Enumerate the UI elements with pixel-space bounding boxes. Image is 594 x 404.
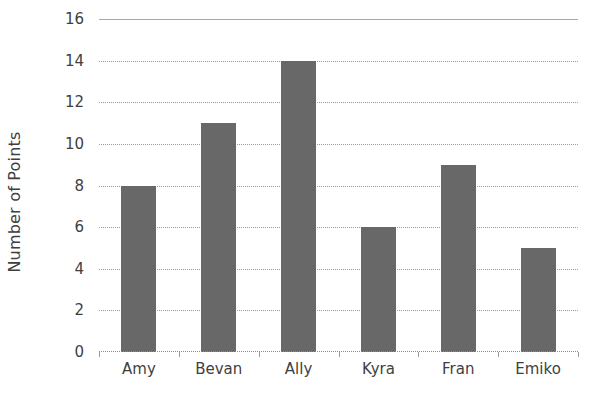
x-tick-label: Bevan [195,362,242,377]
x-tick-label: Kyra [362,362,395,377]
bar[interactable] [201,123,236,352]
bar[interactable] [361,227,396,352]
x-axis-tick-labels: AmyBevanAllyKyraFranEmiko [99,362,578,392]
plot-area [99,19,578,352]
bar[interactable] [521,248,556,352]
bar-series [99,19,578,352]
x-tick-mark [498,352,499,357]
x-tick-mark [578,352,579,357]
y-tick-label: 8 [74,178,84,193]
x-tick-label: Amy [122,362,156,377]
x-axis-tick-marks [99,352,578,358]
y-tick-label: 0 [74,345,84,360]
y-tick-label: 14 [65,53,84,68]
bar[interactable] [441,165,476,352]
bar-chart: Number of Points 0246810121416 AmyBevanA… [0,0,594,404]
y-tick-label: 2 [74,303,84,318]
x-tick-label: Fran [442,362,474,377]
x-tick-mark [259,352,260,357]
y-axis-title-text: Number of Points [5,131,24,272]
y-tick-label: 4 [74,261,84,276]
bar[interactable] [121,186,156,353]
y-tick-label: 16 [65,12,84,27]
y-tick-label: 12 [65,95,84,110]
x-tick-mark [99,352,100,357]
x-tick-mark [179,352,180,357]
y-tick-label: 10 [65,136,84,151]
bar[interactable] [281,61,316,352]
y-axis-title: Number of Points [0,0,46,404]
x-tick-mark [339,352,340,357]
x-tick-label: Ally [285,362,312,377]
x-tick-mark [418,352,419,357]
y-tick-label: 6 [74,220,84,235]
y-axis-tick-labels: 0246810121416 [46,0,92,404]
x-tick-label: Emiko [515,362,561,377]
